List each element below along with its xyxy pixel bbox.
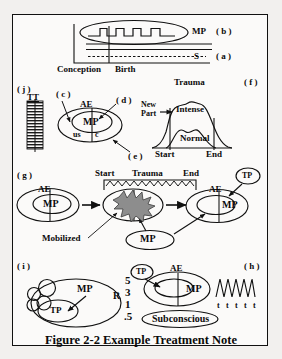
label-tp-i: TP [50, 306, 62, 315]
scale-value-2: 1 [125, 299, 131, 310]
label-trauma-f: Trauma [174, 78, 205, 87]
panel-label-b: ( b ) [216, 27, 232, 36]
label-ae-h: AE [170, 264, 183, 273]
label-ae-j: AE [80, 100, 93, 109]
panel-label-c: ( c ) [56, 90, 71, 99]
label-mp-g-left: MP [43, 199, 59, 209]
scale-value-3: .5 [124, 311, 132, 322]
label-trauma-g: Trauma [132, 169, 163, 178]
label-end-g: End [183, 169, 199, 178]
label-start-f: Start [155, 150, 175, 159]
figure-caption: Figure 2-2 Example Treatment Note [0, 333, 282, 348]
label-tt: TT [27, 93, 39, 102]
panel-label-h: ( h ) [244, 262, 260, 271]
label-mp-j: MP [83, 117, 99, 127]
scale-value-0: 5 [125, 275, 131, 286]
t-mark-4: t [253, 302, 256, 310]
label-mp-g-bottom: MP [140, 234, 156, 244]
label-start-g: Start [95, 169, 115, 178]
label-mobilized: Mobilized [42, 234, 81, 243]
t-mark-1: t [226, 302, 229, 310]
label-mp-i: MP [77, 284, 93, 294]
label-subconscious: Subconscious [152, 314, 209, 324]
label-r-axis: R [113, 291, 120, 301]
t-mark-2: t [235, 302, 238, 310]
axis-label-birth: Birth [115, 65, 136, 74]
figure-frame [12, 14, 268, 346]
label-new-part-line2: Part [141, 110, 156, 118]
label-us-j: us [73, 131, 81, 139]
label-tp-h: TP [136, 268, 146, 276]
figure-container: MP ( b ) S ( a ) Conception Birth ( j ) … [0, 0, 282, 359]
label-end-f: End [206, 150, 222, 159]
label-mp-g-right: MP [222, 200, 238, 210]
panel-label-e: ( e ) [128, 152, 143, 161]
label-ae-g-right: AE [209, 185, 222, 194]
panel-label-g: ( g ) [17, 171, 32, 180]
label-tp-g: TP [242, 172, 252, 180]
label-mp-h: MP [186, 284, 202, 294]
panel-label-d: ( d ) [116, 96, 132, 105]
label-normal: Normal [180, 134, 210, 143]
label-intense: Intense [176, 105, 204, 114]
t-mark-0: t [217, 302, 220, 310]
label-ae-g-left: AE [38, 185, 51, 194]
label-mp-top: MP [192, 27, 206, 36]
t-mark-3: t [244, 302, 247, 310]
label-c-j: c [95, 131, 99, 139]
axis-label-conception: Conception [57, 65, 101, 74]
panel-label-i: ( i ) [17, 262, 30, 271]
panel-label-a: ( a ) [216, 52, 231, 61]
label-s-top: S [194, 52, 199, 61]
label-new-part-line1: New [141, 101, 156, 109]
scale-value-1: 3 [125, 287, 131, 298]
panel-label-f: ( f ) [244, 78, 258, 87]
